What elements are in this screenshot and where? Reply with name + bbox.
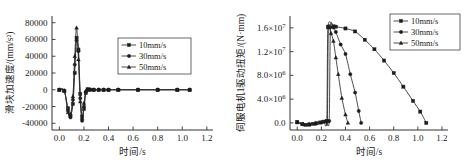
axis-tick-label: 0.2 [78,133,89,143]
data-point-marker [340,96,344,99]
servo-motor-torque-chart: 0.04.0×1068.0×1061.2×1071.6×1070.00.20.4… [232,0,465,168]
data-point-marker [353,91,356,94]
series-30mm/s [296,22,363,126]
data-point-marker [332,39,336,42]
chart-panel-servo-motor-torque: 0.04.0×1068.0×1061.2×1071.6×1070.00.20.4… [232,0,465,168]
axis-tick-label: 60000 [25,34,48,44]
data-point-marker [71,94,75,97]
data-point-marker [392,71,395,74]
axis-tick-label: 8.0×106 [257,69,286,80]
data-point-marker [75,26,79,29]
legend-label-30mm/s: 30mm/s [411,27,438,37]
figure-container: -40000-200000200004000060000800000.00.20… [0,0,465,168]
axis-tick-label: 0.8 [152,133,164,143]
data-point-marker [419,110,422,113]
axis-tick-label: 0.0 [54,133,66,143]
x-axis-label: 时间/s [119,146,146,157]
data-point-marker [399,19,402,22]
axis-tick-label: 1.2 [201,133,212,143]
data-point-marker [78,100,82,103]
legend-label-10mm/s: 10mm/s [411,16,438,26]
data-point-marker [332,26,335,29]
data-point-marker [339,43,342,46]
slider-acceleration-chart: -40000-200000200004000060000800000.00.20… [0,0,232,168]
data-point-marker [359,121,362,124]
axis-tick-label: 0 [43,85,48,95]
x-axis-label: 时间/s [356,146,383,157]
axis-tick-label: 80000 [25,18,48,28]
data-point-marker [334,30,337,33]
legend-label-30mm/s: 30mm/s [139,51,166,61]
data-point-marker [354,30,357,33]
axis-tick-label: 1.2 [436,133,447,143]
data-point-marker [382,59,385,62]
data-point-marker [373,48,376,51]
data-point-marker [336,72,340,75]
data-point-marker [127,43,130,46]
y-axis-label: 伺服电机1驱动扭矩/(N·mm) [235,14,247,133]
data-point-marker [73,54,77,57]
axis-tick-label: -20000 [22,102,48,112]
chart-legend: 10mm/s30mm/s50mm/s [390,14,460,50]
data-point-marker [127,54,130,57]
axis-tick-label: 1.0 [177,133,189,143]
data-point-marker [344,113,348,116]
axis-tick-label: 0.8 [388,133,400,143]
data-point-marker [344,27,347,30]
data-point-marker [69,116,72,119]
axis-tick-label: 1.6×107 [257,22,286,33]
axis-tick-label: -40000 [22,118,48,128]
data-point-marker [425,121,428,124]
legend-label-50mm/s: 50mm/s [139,62,166,72]
axis-tick-label: 20000 [25,68,48,78]
data-point-marker [357,109,360,112]
data-point-marker [399,30,402,33]
legend-label-10mm/s: 10mm/s [139,40,166,50]
axis-tick-label: 40000 [25,51,48,61]
axis-tick-label: 0.4 [103,133,115,143]
data-point-marker [77,58,81,61]
axis-tick-label: 1.2×107 [257,45,286,56]
data-point-marker [349,73,352,76]
axis-tick-label: 0.0 [274,118,286,128]
axis-tick-label: 4.0×106 [257,93,286,104]
axis-tick-label: 0.0 [292,133,304,143]
data-point-marker [363,38,366,41]
data-point-marker [329,31,333,34]
axis-tick-label: 0.4 [340,133,352,143]
data-point-marker [402,85,405,88]
axis-tick-label: 0.2 [316,133,327,143]
legend-label-50mm/s: 50mm/s [411,38,438,48]
data-point-marker [334,56,338,59]
chart-panel-slider-acceleration: -40000-200000200004000060000800000.00.20… [0,0,232,168]
data-point-marker [411,99,414,102]
series-50mm/s [295,24,349,126]
data-point-marker [346,121,350,124]
axis-tick-label: 0.6 [364,133,376,143]
chart-legend: 10mm/s30mm/s50mm/s [118,38,191,74]
axis-tick-label: 0.6 [127,133,139,143]
series-line [297,24,348,126]
axis-tick-label: 1.0 [412,133,424,143]
data-point-marker [82,101,86,104]
data-point-marker [344,52,347,55]
y-axis-label: 滑块加速度/(mm/s²) [4,32,16,115]
